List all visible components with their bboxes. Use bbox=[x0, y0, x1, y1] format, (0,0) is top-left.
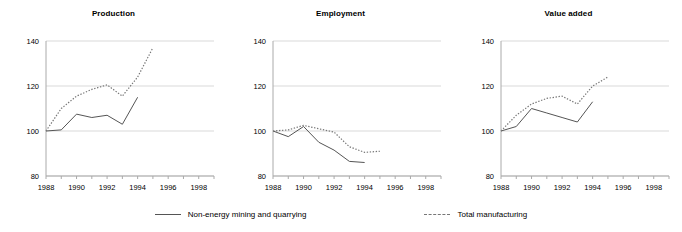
x-tick-label-1990: 1990 bbox=[295, 183, 312, 192]
x-tick-label-1990: 1990 bbox=[68, 183, 85, 192]
solid-line-swatch bbox=[155, 214, 181, 215]
x-tick-label-1988: 1988 bbox=[38, 183, 55, 192]
chart-legend: Non-energy mining and quarrying Total ma… bbox=[0, 203, 682, 225]
legend-label-manufacturing: Total manufacturing bbox=[457, 210, 527, 219]
x-tick-label-1996: 1996 bbox=[615, 183, 632, 192]
series-line-mining bbox=[273, 127, 365, 163]
x-tick-label-1992: 1992 bbox=[554, 183, 571, 192]
x-tick-label-1992: 1992 bbox=[99, 183, 116, 192]
legend-label-mining: Non-energy mining and quarrying bbox=[188, 210, 307, 219]
y-tick-label-80: 80 bbox=[258, 172, 266, 181]
x-tick-label-1994: 1994 bbox=[129, 183, 146, 192]
chart-panel-value-added: Value added 8010012014019881990199219941… bbox=[455, 0, 682, 196]
y-tick-label-100: 100 bbox=[253, 127, 266, 136]
x-tick-label-1994: 1994 bbox=[356, 183, 373, 192]
plot-area-value-added: 80100120140198819901992199419961998 bbox=[455, 0, 682, 196]
x-tick-label-1990: 1990 bbox=[523, 183, 540, 192]
x-tick-label-1994: 1994 bbox=[584, 183, 601, 192]
y-tick-label-80: 80 bbox=[31, 172, 39, 181]
x-tick-label-1998: 1998 bbox=[645, 183, 662, 192]
x-tick-label-1998: 1998 bbox=[417, 183, 434, 192]
x-tick-label-1996: 1996 bbox=[387, 183, 404, 192]
series-line-manufacturing bbox=[501, 77, 608, 131]
series-line-mining bbox=[501, 102, 593, 131]
x-tick-label-1988: 1988 bbox=[265, 183, 282, 192]
plot-area-production: 80100120140198819901992199419961998 bbox=[0, 0, 227, 196]
y-tick-label-140: 140 bbox=[253, 37, 266, 46]
plot-area-employment: 80100120140198819901992199419961998 bbox=[227, 0, 454, 196]
y-tick-label-100: 100 bbox=[26, 127, 39, 136]
y-tick-label-140: 140 bbox=[26, 37, 39, 46]
multi-panel-line-chart-figure: Production 80100120140198819901992199419… bbox=[0, 0, 682, 232]
x-tick-label-1998: 1998 bbox=[190, 183, 207, 192]
chart-panel-production: Production 80100120140198819901992199419… bbox=[0, 0, 227, 196]
y-tick-label-80: 80 bbox=[486, 172, 494, 181]
legend-entry-mining: Non-energy mining and quarrying bbox=[155, 210, 307, 219]
series-line-manufacturing bbox=[46, 48, 153, 131]
y-tick-label-100: 100 bbox=[481, 127, 494, 136]
series-line-mining bbox=[46, 97, 138, 131]
legend-entry-manufacturing: Total manufacturing bbox=[424, 210, 527, 219]
chart-panel-employment: Employment 80100120140198819901992199419… bbox=[227, 0, 454, 196]
dashed-line-swatch bbox=[424, 214, 450, 215]
x-tick-label-1988: 1988 bbox=[493, 183, 510, 192]
y-tick-label-140: 140 bbox=[481, 37, 494, 46]
y-tick-label-120: 120 bbox=[26, 82, 39, 91]
series-line-manufacturing bbox=[273, 125, 380, 152]
y-tick-label-120: 120 bbox=[481, 82, 494, 91]
x-tick-label-1992: 1992 bbox=[326, 183, 343, 192]
x-tick-label-1996: 1996 bbox=[160, 183, 177, 192]
y-tick-label-120: 120 bbox=[253, 82, 266, 91]
